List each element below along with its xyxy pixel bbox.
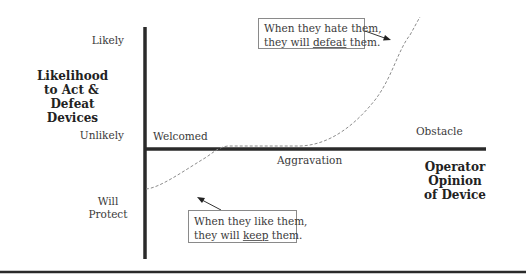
callout-text: them. [268,229,302,241]
callout-line: When they like them, [194,214,291,228]
callout-text: them. [346,36,380,48]
y-tick-unlikely: Unlikely [80,129,124,141]
y-tick-will-protect: Will Protect [88,195,128,221]
callout-line: they will keep them. [194,228,291,242]
callout-like-keep: When they like them, they will keep them… [188,210,297,243]
y-tick-line: Protect [88,208,128,221]
callout-emphasis: defeat [313,36,347,48]
callout-text: they will [264,36,313,48]
y-axis-title-line: to Act & [30,83,115,97]
y-axis-title-line: Defeat Devices [30,97,115,125]
x-axis-title: Operator Opinion of Device [400,160,510,202]
callout-text: they will [194,229,243,241]
callout-line: When they hate them, [264,21,359,35]
x-label-aggravation: Aggravation [277,154,342,166]
y-axis-title: Likelihood to Act & Defeat Devices [30,69,115,125]
arrowhead-icon [383,35,391,41]
x-axis-title-line: Operator Opinion [400,160,510,188]
callout-hate-defeat: When they hate them, they will defeat th… [258,18,365,49]
arrowhead-icon [197,197,205,203]
y-tick-line: Will [88,195,128,208]
y-tick-likely: Likely [92,34,124,46]
x-label-welcomed: Welcomed [153,130,208,142]
y-axis-title-line: Likelihood [30,69,115,83]
x-label-obstacle: Obstacle [416,125,463,137]
bottom-callout-arrow [202,200,221,210]
callout-emphasis: keep [243,229,269,241]
x-axis-title-line: of Device [400,188,510,202]
callout-line: they will defeat them. [264,35,359,49]
